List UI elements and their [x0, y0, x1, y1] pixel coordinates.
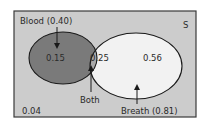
blood-only-value: 0.15 — [46, 53, 65, 63]
neither-value: 0.04 — [22, 106, 41, 116]
blood-set-label: Blood (0.40) — [20, 16, 72, 26]
breath-set-label: Breath (0.81) — [121, 106, 178, 116]
breath-only-value: 0.56 — [143, 53, 162, 63]
universe-label: S — [183, 20, 188, 30]
venn-diagram: Blood (0.40) S 0.15 0.25 0.56 Both Breat… — [0, 0, 208, 125]
both-value: 0.25 — [90, 53, 109, 63]
both-label: Both — [80, 95, 100, 105]
